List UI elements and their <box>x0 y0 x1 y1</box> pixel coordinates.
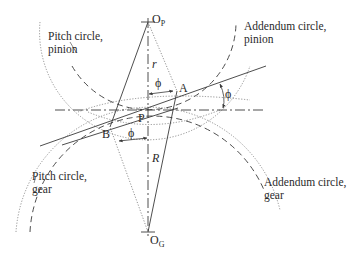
label-addendum-circle-pinion: Addendum circle, pinion <box>244 20 326 46</box>
label-point-b: B <box>102 128 110 140</box>
label-og-sub: G <box>159 240 165 249</box>
phi-right-arrow <box>220 84 224 108</box>
label-radius-pinion: r <box>152 58 157 70</box>
label-og-main: O <box>150 233 159 247</box>
label-phi-top: ϕ <box>155 77 161 89</box>
label-phi-right: ϕ <box>225 88 231 100</box>
tangent-line <box>62 108 178 145</box>
label-op-main: O <box>152 12 161 26</box>
label-pitch-circle-gear: Pitch circle, gear <box>32 170 87 196</box>
label-op: OP <box>152 13 165 27</box>
label-phi-bottom: ϕ <box>128 127 134 139</box>
label-radius-gear: R <box>152 152 159 164</box>
label-og: OG <box>150 234 164 248</box>
label-pitch-point: P <box>138 112 145 124</box>
label-addendum-circle-gear: Addendum circle, gear <box>264 176 346 202</box>
phi-top-arrow <box>149 91 173 94</box>
line-of-action <box>40 66 266 146</box>
label-point-a: A <box>179 82 188 94</box>
og-to-b-line <box>110 127 148 232</box>
label-op-sub: P <box>161 19 165 28</box>
label-pitch-circle-pinion: Pitch circle, pinion <box>48 30 103 56</box>
